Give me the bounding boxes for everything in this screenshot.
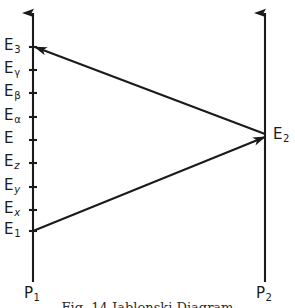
level-label-base: E [4,199,14,217]
level-label-Ey: Ey [4,178,20,194]
level-label-base: E [4,129,14,147]
level-label-subscript: 1 [14,228,21,239]
level-label-E3: E3 [4,38,20,54]
level-label-Eα: Eα [4,108,20,124]
energy-level-diagram: E3EγEβEαEEzEyExE1 P1P2 E2 Fig. 14 Jablon… [0,0,295,308]
level-label-subscript: γ [14,67,20,78]
level-label-subscript: β [14,90,21,101]
level-label-E1: E1 [4,222,20,238]
level-label-base: E [4,106,14,124]
level-label-base: E [4,152,14,170]
downward-transition [35,47,265,134]
level-label-base: E [4,59,14,77]
level-label-Ex: Ex [4,201,20,217]
node-label-e2: E2 [273,127,289,143]
node-label-subscript: 2 [283,133,289,144]
node-label-base: E [273,125,282,143]
level-label-Eβ: Eβ [4,84,20,100]
level-label-E: E [4,131,14,146]
level-label-base: E [4,176,14,194]
level-label-Ez: Ez [4,154,19,170]
level-label-subscript: y [14,184,20,195]
level-label-subscript: z [14,160,19,171]
transition-group [33,47,265,231]
level-label-Eγ: Eγ [4,61,20,77]
level-label-subscript: α [14,114,21,125]
level-label-subscript: x [14,207,20,218]
figure-caption: Fig. 14 Jablonski Diagram [0,300,295,308]
upward-transition [33,137,265,231]
level-label-base: E [4,220,14,238]
level-label-base: E [4,82,14,100]
level-label-subscript: 3 [14,44,21,55]
level-label-base: E [4,36,14,54]
diagram-canvas [0,0,295,308]
